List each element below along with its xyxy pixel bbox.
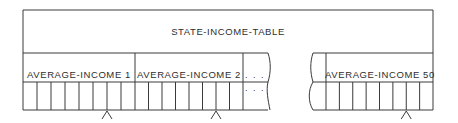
table-title: STATE-INCOME-TABLE (171, 26, 285, 37)
group-label-50: AVERAGE-INCOME 50 (325, 69, 435, 80)
group-label-2: AVERAGE-INCOME 2 (137, 69, 241, 80)
break-edge-left (309, 53, 313, 110)
group-label-1: AVERAGE-INCOME 1 (27, 69, 131, 80)
state-income-table-diagram: STATE-INCOME-TABLE AVERAGE-INCOME 1 AVER… (0, 0, 458, 123)
pointer-caret-icon (401, 111, 411, 119)
ellipsis-cell-row: . . . (245, 83, 265, 93)
cells-layer (37, 82, 420, 119)
pointer-caret-icon (211, 111, 221, 119)
pointer-caret-icon (102, 111, 112, 119)
ellipsis-label-row: . . . (245, 70, 265, 80)
break-edge-right (267, 53, 270, 110)
